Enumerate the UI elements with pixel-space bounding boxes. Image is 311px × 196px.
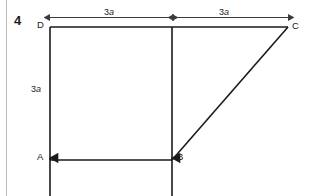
dimension-symbol-top-left: a xyxy=(109,7,114,17)
dimension-symbol-top-right: a xyxy=(224,7,229,17)
node-label-D: D xyxy=(37,20,44,30)
figure-page: 4 A B C D xyxy=(0,0,311,196)
dimension-label-left-vertical: 3a xyxy=(29,85,43,94)
member-BC-diagonal xyxy=(172,27,288,160)
frame-diagram xyxy=(0,0,311,196)
support-reactions xyxy=(50,158,172,196)
node-label-B: B xyxy=(177,152,183,162)
dimension-label-top-right: 3a xyxy=(217,8,231,17)
node-label-C: C xyxy=(292,21,299,31)
dimension-label-top-left: 3a xyxy=(102,8,116,17)
node-label-A: A xyxy=(37,152,43,162)
frame-members xyxy=(50,27,288,160)
dimension-symbol-left: a xyxy=(36,84,41,94)
